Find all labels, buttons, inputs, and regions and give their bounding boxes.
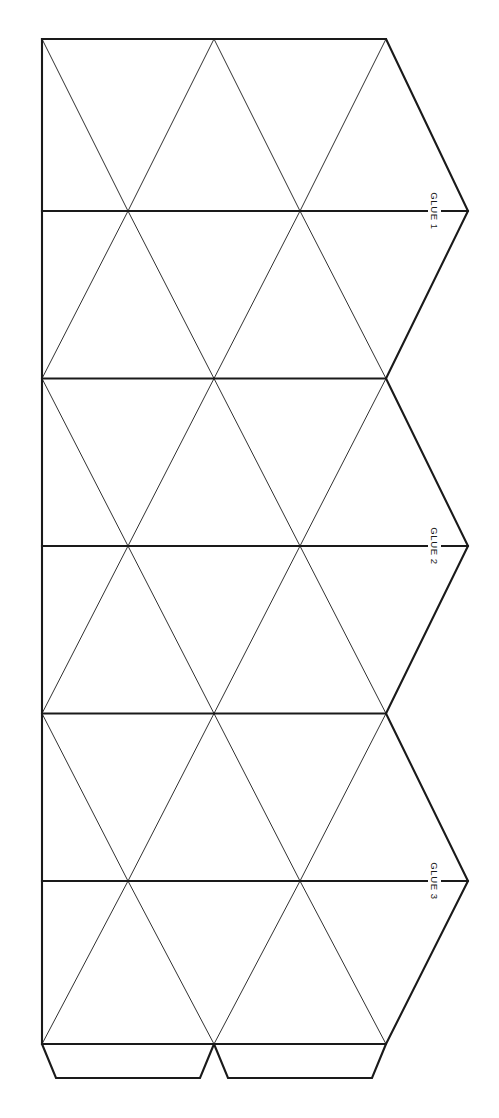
- right-edge-with-glue-tabs: [386, 39, 468, 1044]
- fold-line: [300, 379, 386, 547]
- glue-tab-labels-foreground: GLUE 1 GLUE 2 GLUE 3: [429, 192, 440, 899]
- glue-tab-3-label-text: GLUE 3: [429, 862, 440, 899]
- fold-line: [214, 39, 300, 211]
- fold-line: [128, 546, 214, 714]
- fold-line: [214, 546, 300, 714]
- fold-line: [128, 714, 214, 882]
- fold-lines-group: [42, 39, 386, 1044]
- fold-line: [300, 881, 386, 1044]
- fold-line: [42, 881, 128, 1044]
- fold-line: [128, 379, 214, 547]
- fold-line: [128, 211, 214, 379]
- band-fold-lines-group: [42, 39, 468, 1044]
- fold-line: [300, 546, 386, 714]
- fold-line: [42, 39, 128, 211]
- fold-line: [300, 39, 386, 211]
- fold-line: [42, 379, 128, 547]
- papercraft-sheet: GLUE 1 GLUE 2 GLUE 3 GLUE 1 GLUE 2 GLUE …: [0, 0, 499, 1118]
- glue-tab-1-label-text: GLUE 1: [429, 192, 440, 229]
- icosahedron-net-drawing: GLUE 1 GLUE 2 GLUE 3 GLUE 1 GLUE 2 GLUE …: [0, 0, 499, 1118]
- bottom-tab-right: [214, 1044, 386, 1078]
- fold-line: [300, 211, 386, 379]
- glue-tab-3-outline: [386, 714, 468, 1045]
- fold-line: [214, 881, 300, 1044]
- fold-line: [128, 39, 214, 211]
- fold-line: [300, 714, 386, 882]
- fold-line: [42, 211, 128, 379]
- bottom-tab-left: [42, 1044, 214, 1078]
- fold-line: [214, 211, 300, 379]
- fold-line: [128, 881, 214, 1044]
- fold-line: [214, 379, 300, 547]
- fold-line: [42, 546, 128, 714]
- glue-tab-2-label-text: GLUE 2: [429, 527, 440, 564]
- bottom-glue-tabs-group: [42, 1044, 386, 1078]
- fold-line: [214, 714, 300, 882]
- fold-line: [42, 714, 128, 882]
- glue-tab-1-outline: [386, 39, 468, 379]
